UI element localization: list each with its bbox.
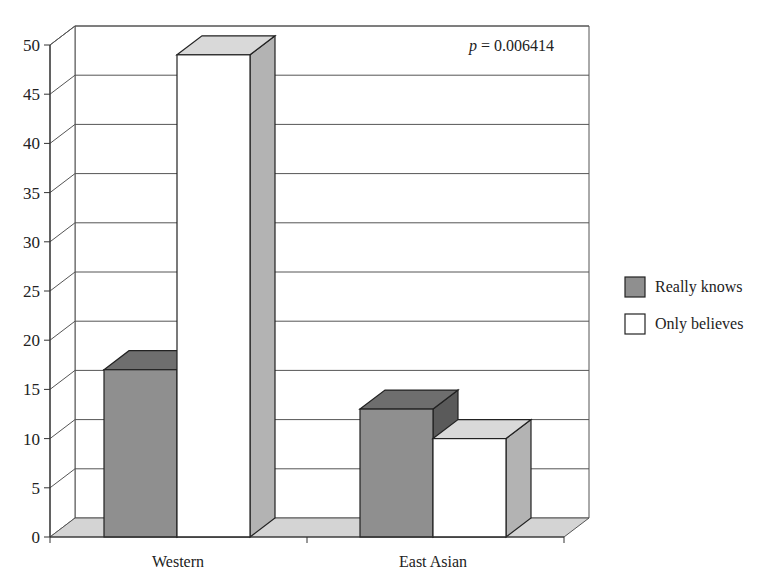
y-tick-label: 40 xyxy=(23,134,40,153)
p-value-text: p = 0.006414 xyxy=(468,37,554,55)
bar-front xyxy=(177,55,250,537)
y-tick-label: 20 xyxy=(23,331,40,350)
y-tick-label: 15 xyxy=(23,380,40,399)
bar-only-believes-east-asian xyxy=(433,420,531,537)
y-axis: 05101520253035404550 xyxy=(23,36,50,547)
legend-swatch xyxy=(625,314,645,334)
p-value-annotation: p = 0.006414 xyxy=(468,37,554,55)
y-tick-label: 10 xyxy=(23,430,40,449)
p-value: = 0.006414 xyxy=(477,37,554,54)
x-category-label: Western xyxy=(152,553,204,570)
y-tick-label: 5 xyxy=(32,479,41,498)
y-tick-label: 25 xyxy=(23,282,40,301)
p-symbol: p xyxy=(468,37,477,55)
bar-front xyxy=(433,439,506,537)
y-tick-label: 0 xyxy=(32,528,41,547)
legend-label: Really knows xyxy=(655,278,743,296)
bar-only-believes-western xyxy=(177,36,275,537)
bar-side xyxy=(506,420,531,537)
legend-item-only-believes: Only believes xyxy=(625,314,743,334)
bar-front xyxy=(360,409,433,537)
y-tick-label: 45 xyxy=(23,85,40,104)
bar-front xyxy=(104,370,177,537)
legend-swatch xyxy=(625,277,645,297)
y-tick-label: 50 xyxy=(23,36,40,55)
legend-item-really-knows: Really knows xyxy=(625,277,743,297)
x-axis: WesternEast Asian xyxy=(50,537,564,570)
x-category-label: East Asian xyxy=(399,553,467,570)
y-tick-label: 35 xyxy=(23,184,40,203)
legend-label: Only believes xyxy=(655,315,743,333)
bar-side xyxy=(250,36,275,537)
legend: Really knowsOnly believes xyxy=(625,277,743,334)
bar-chart: 05101520253035404550 WesternEast Asian p… xyxy=(0,0,770,582)
y-tick-label: 30 xyxy=(23,233,40,252)
